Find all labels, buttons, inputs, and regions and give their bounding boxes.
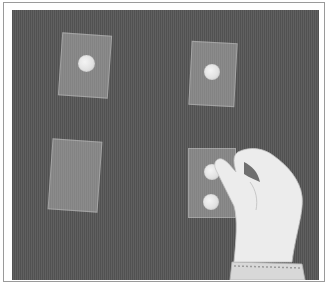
photo <box>12 10 319 280</box>
hand <box>12 10 319 280</box>
